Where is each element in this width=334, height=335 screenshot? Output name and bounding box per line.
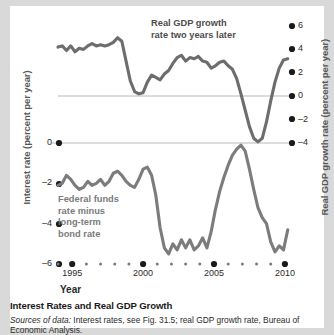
y-axis-right-tick-2: 2	[298, 67, 322, 77]
x-axis-tick-3: 2010	[268, 268, 302, 278]
x-axis-dot-2007	[241, 263, 244, 266]
tick-dot-right-4	[289, 46, 295, 52]
y-axis-left-tick-2: –4	[30, 218, 52, 228]
annotation-real-gdp-growth: Real GDP growth rate two years later	[151, 18, 236, 41]
tick-dot-right-2	[289, 69, 295, 75]
gridlines	[52, 96, 292, 143]
y-axis-right-tick-5: –4	[298, 137, 322, 147]
y-axis-right-title: Real GDP growth rate (percent per year)	[319, 56, 330, 216]
x-axis-dot-2002	[170, 263, 173, 266]
figure-container: Interest rate (percent per year) Real GD…	[10, 6, 324, 328]
chart-plot-area: Interest rate (percent per year) Real GD…	[10, 6, 324, 288]
tick-dot-right-minus4	[289, 140, 295, 146]
x-axis-dot-2005	[211, 261, 217, 267]
annotation-gdp-line1: Real GDP growth	[151, 18, 236, 30]
annotation-ffr-line1: Federal funds	[58, 194, 119, 206]
tick-dot-left-0	[56, 140, 62, 146]
x-axis-dot-2003	[184, 263, 187, 266]
x-axis-dot-1998	[113, 263, 116, 266]
y-axis-right-tick-4: –2	[298, 114, 322, 124]
figure-caption: Interest Rates and Real GDP Growth Sourc…	[10, 300, 324, 335]
y-axis-left-tick-1: –2	[30, 177, 52, 187]
annotation-gdp-line2: rate two years later	[151, 30, 236, 42]
x-axis-dot-2006	[227, 263, 230, 266]
x-axis-tick-1: 2000	[126, 268, 160, 278]
x-axis-dot-2008	[255, 263, 258, 266]
axis-tick-dots-y-right	[289, 23, 295, 146]
x-axis-dot-2000	[140, 261, 146, 267]
x-axis-title: Year	[60, 284, 81, 295]
y-axis-right-tick-1: 4	[298, 43, 322, 53]
caption-title: Interest Rates and Real GDP Growth	[10, 300, 324, 311]
y-axis-left-tick-3: –6	[30, 258, 52, 268]
caption-source-prefix: Sources of data:	[10, 315, 71, 325]
x-axis-dot-2004	[198, 263, 201, 266]
y-axis-right-tick-3: 0	[298, 90, 322, 100]
chart-svg	[10, 6, 324, 288]
annotation-federal-funds-spread: Federal funds rate minus long-term bond …	[58, 194, 119, 240]
tick-dot-right-minus2	[289, 116, 295, 122]
caption-source: Sources of data: Interest rates, see Fig…	[10, 315, 324, 335]
x-axis-dot-2010	[282, 261, 288, 267]
annotation-ffr-line4: bond rate	[58, 229, 119, 241]
x-axis-dot-1999	[127, 263, 130, 266]
y-axis-left-tick-0: 0	[30, 137, 52, 147]
x-axis-dot-2001	[156, 263, 159, 266]
x-axis-dot-1996	[85, 263, 88, 266]
x-axis-dot-2009	[269, 263, 272, 266]
x-axis-dot-1997	[99, 263, 102, 266]
x-axis-dot-1995	[69, 261, 75, 267]
x-axis-tick-2: 2005	[197, 268, 231, 278]
tick-dot-right-6	[289, 23, 295, 29]
x-axis-dot-1994	[57, 263, 60, 266]
annotation-ffr-line2: rate minus	[58, 206, 119, 218]
annotation-ffr-line3: long-term	[58, 217, 119, 229]
tick-dot-right-0	[289, 93, 295, 99]
series-line-real-gdp-growth	[58, 38, 288, 142]
y-axis-right-tick-0: 6	[298, 20, 322, 30]
x-axis-tick-0: 1995	[55, 268, 89, 278]
axis-tick-dots-x	[57, 261, 289, 267]
